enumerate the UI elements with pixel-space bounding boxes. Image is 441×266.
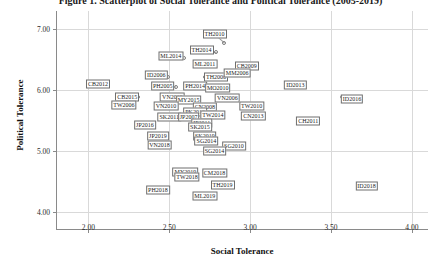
data-point-label[interactable]: ID2013 xyxy=(284,81,306,90)
y-axis-tick-label: 4.00 xyxy=(37,207,50,216)
data-point-label[interactable]: CN2013 xyxy=(241,112,265,121)
gridline-vertical xyxy=(88,11,89,230)
gridline-horizontal xyxy=(56,151,428,152)
data-point-label[interactable]: VN2006 xyxy=(215,93,240,102)
data-point-label[interactable]: CB2012 xyxy=(86,80,110,89)
data-point-label[interactable]: TW2018 xyxy=(174,173,199,182)
scatter-chart: Figure 1. Scatterplot of Social Toleranc… xyxy=(0,0,441,266)
x-axis-tick-label: 3.50 xyxy=(324,223,337,232)
data-point-label[interactable]: VN2010 xyxy=(154,101,179,110)
data-point-label[interactable]: MO2010 xyxy=(205,83,231,92)
data-point-label[interactable]: TW2010 xyxy=(239,101,264,110)
data-point-label[interactable]: JP2019 xyxy=(147,131,169,140)
data-point-label[interactable]: ID2006 xyxy=(145,71,167,80)
data-point-marker[interactable] xyxy=(214,50,218,54)
data-point-label[interactable]: SG2014 xyxy=(195,137,219,146)
gridline-horizontal xyxy=(56,90,428,91)
data-point-label[interactable]: PH2014 xyxy=(183,82,207,91)
data-point-label[interactable]: PH2018 xyxy=(146,185,170,194)
data-point-label[interactable]: TH2014 xyxy=(190,45,214,54)
data-point-label[interactable]: ML2011 xyxy=(192,59,217,68)
data-point-label[interactable]: SG2014 xyxy=(203,146,227,155)
gridline-vertical xyxy=(412,11,413,230)
data-point-label[interactable]: MM2006 xyxy=(224,69,251,78)
gridline-horizontal xyxy=(56,212,428,213)
data-point-label[interactable]: CH2011 xyxy=(296,116,320,125)
x-axis-tick-label: 2.50 xyxy=(163,223,176,232)
plot-area: TH2010TH2014ML2014ML2011CB2009ID2006TH20… xyxy=(56,11,428,230)
data-point-label[interactable]: TW2006 xyxy=(111,100,136,109)
y-axis-tick-label: 5.00 xyxy=(37,146,50,155)
x-axis-tick-label: 3.00 xyxy=(244,223,257,232)
data-point-label[interactable]: PH2005 xyxy=(151,82,175,91)
gridline-horizontal xyxy=(56,29,428,30)
data-point-label[interactable]: TH2010 xyxy=(203,30,227,39)
x-axis-title: Social Tolerance xyxy=(56,246,428,256)
data-point-label[interactable]: JP2016 xyxy=(134,121,156,130)
x-axis-tick-label: 4.00 xyxy=(405,223,418,232)
data-point-label[interactable]: ID2018 xyxy=(355,182,377,191)
y-axis-line xyxy=(56,11,57,230)
y-axis-title: Political Tolerance xyxy=(15,55,25,175)
data-point-label[interactable]: CM2018 xyxy=(202,168,227,177)
data-point-label[interactable]: VN2018 xyxy=(147,140,172,149)
data-point-label[interactable]: ML2019 xyxy=(192,191,217,200)
data-point-label[interactable]: ID2016 xyxy=(341,95,363,104)
y-axis-tick-label: 7.00 xyxy=(37,25,50,34)
data-point-label[interactable]: SK2015 xyxy=(188,123,212,132)
data-point-label[interactable]: ML2014 xyxy=(158,52,183,61)
data-point-label[interactable]: TH2019 xyxy=(211,180,235,189)
x-axis-tick-label: 2.00 xyxy=(82,223,95,232)
chart-title: Figure 1. Scatterplot of Social Toleranc… xyxy=(0,0,441,9)
x-axis-line xyxy=(56,229,428,230)
data-point-marker[interactable] xyxy=(222,41,226,45)
gridline-vertical xyxy=(331,11,332,230)
y-axis-tick-label: 6.00 xyxy=(37,86,50,95)
